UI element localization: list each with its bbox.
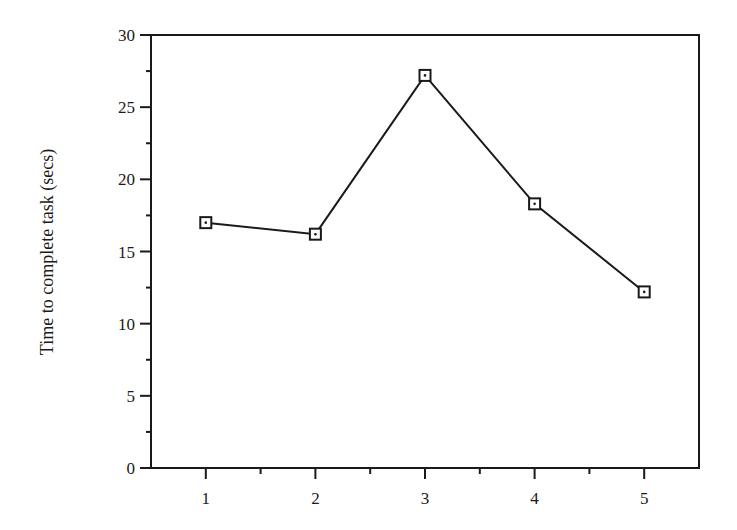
marker-dot xyxy=(643,291,646,294)
plot-frame xyxy=(151,35,699,468)
x-tick-label: 3 xyxy=(421,489,430,508)
y-tick-label: 20 xyxy=(118,170,135,189)
x-axis: 12345 xyxy=(202,468,649,508)
y-axis: 051015202530 xyxy=(118,26,151,478)
plot-border xyxy=(151,35,699,468)
marker-dot xyxy=(205,221,208,224)
y-tick-label: 30 xyxy=(118,26,135,45)
x-tick-label: 5 xyxy=(640,489,649,508)
series-line xyxy=(206,75,644,292)
x-tick-label: 2 xyxy=(311,489,320,508)
y-axis-title: Time to complete task (secs) xyxy=(37,149,58,355)
y-tick-label: 5 xyxy=(127,387,136,406)
y-tick-label: 0 xyxy=(127,459,136,478)
marker-dot xyxy=(314,233,317,236)
data-series xyxy=(200,70,649,298)
x-tick-label: 4 xyxy=(530,489,539,508)
y-tick-label: 15 xyxy=(118,243,135,262)
marker-dot xyxy=(533,203,536,206)
marker-dot xyxy=(424,74,427,77)
x-tick-label: 1 xyxy=(202,489,211,508)
line-chart: 051015202530 12345 Time to complete task… xyxy=(0,0,737,530)
y-tick-label: 25 xyxy=(118,98,135,117)
y-tick-label: 10 xyxy=(118,315,135,334)
